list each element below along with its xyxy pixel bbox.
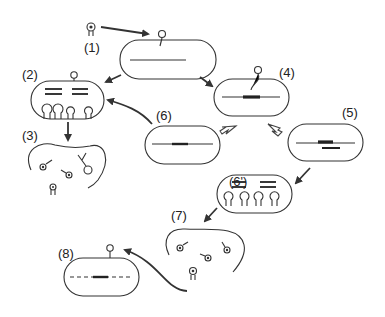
arrow-5-to-6prime	[296, 168, 310, 183]
arrow-7-to-8	[125, 250, 187, 291]
arrow-6prime-to-7	[205, 208, 217, 221]
stage-1-label: (1)	[84, 40, 100, 55]
stage-7-lysed-cell	[166, 229, 244, 280]
arrow-to-stage-4	[200, 77, 212, 86]
arrow-to-stage-2	[106, 75, 121, 82]
stage-5-cell	[288, 124, 363, 161]
stage-8-label: (8)	[58, 246, 74, 261]
stage-6-cell	[145, 126, 220, 164]
stage-4-label: (4)	[279, 65, 295, 80]
phage-cycle-diagram: (1) (2) (3) (4)	[0, 0, 385, 317]
hollow-arrow-4-to-6	[220, 126, 236, 134]
stage-4-cell	[214, 67, 289, 117]
stage-1-free-phage	[87, 23, 95, 36]
stage-2-label: (2)	[22, 67, 38, 82]
arrow-6-to-2	[108, 100, 152, 124]
stage-3-label: (3)	[22, 128, 38, 143]
stage-5-label: (5)	[342, 105, 358, 120]
stage-7-label: (7)	[171, 208, 187, 223]
stage-3-lysed-cell	[29, 144, 106, 195]
stage-6-label: (6)	[156, 108, 172, 123]
stage-8-cell	[64, 245, 139, 296]
stage-2-cell	[31, 72, 104, 119]
hollow-arrow-4-to-5	[268, 124, 282, 136]
arrow-1-to-cell	[101, 27, 148, 34]
infected-cell	[120, 31, 216, 80]
